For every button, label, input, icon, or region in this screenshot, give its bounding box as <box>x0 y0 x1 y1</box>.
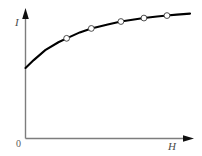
y-axis-label: I <box>15 17 19 28</box>
magnetization-curve-figure: I H 0 <box>0 0 202 156</box>
origin-tick-label: 0 <box>16 139 21 149</box>
data-point-marker <box>141 15 147 21</box>
data-point-marker <box>118 19 124 25</box>
plot-canvas <box>0 0 202 156</box>
y-axis-arrowhead <box>22 8 29 19</box>
x-axis-label: H <box>168 141 176 152</box>
data-point-marker <box>164 13 170 19</box>
data-point-marker <box>88 26 94 32</box>
data-point-marker <box>64 35 70 41</box>
x-axis-arrowhead <box>183 135 194 142</box>
curve-path <box>26 14 191 68</box>
